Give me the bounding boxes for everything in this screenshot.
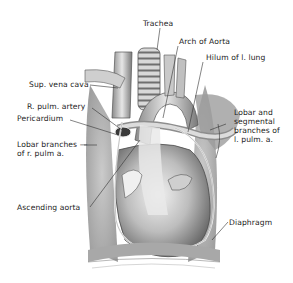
label-ascending-aorta: Ascending aorta: [17, 203, 80, 212]
label-diaphragm: Diaphragm: [229, 218, 272, 227]
label-trachea: Trachea: [143, 19, 173, 28]
label-pericardium: Pericardium: [17, 114, 63, 123]
label-sup-vena-cava: Sup. vena cava: [29, 80, 89, 89]
label-lobar-segmental-l-pulm: Lobar and segmental branches of l. pulm.…: [234, 108, 280, 144]
label-lobar-branches-r-pulm: Lobar branches — of r. pulm a.: [17, 140, 87, 158]
label-r-pulm-artery: R. pulm. artery: [27, 102, 85, 111]
heart-anatomy-diagram: Trachea Arch of Aorta Hilum of l. lung S…: [0, 0, 293, 283]
label-arch-of-aorta: Arch of Aorta: [179, 37, 230, 46]
label-hilum-of-l-lung: Hilum of l. lung: [206, 53, 265, 62]
